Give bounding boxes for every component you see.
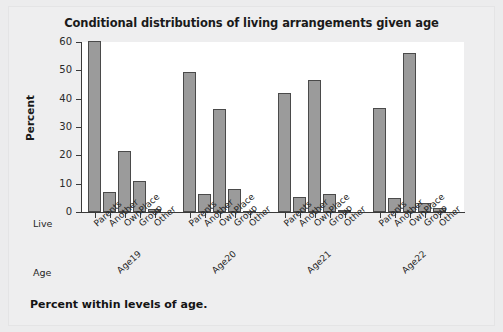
- y-axis-tick-label: 30: [46, 121, 72, 132]
- y-axis-tick-label: 20: [46, 149, 72, 160]
- chart-title: Conditional distributions of living arra…: [0, 16, 503, 30]
- age-row-label: Age: [33, 267, 51, 278]
- chart-footnote: Percent within levels of age.: [30, 298, 207, 311]
- y-axis-tick-label: 40: [46, 93, 72, 104]
- bar: [183, 72, 196, 212]
- y-axis-tick: [76, 99, 81, 100]
- live-row-label: Live: [33, 218, 52, 229]
- y-axis-tick-label: 10: [46, 178, 72, 189]
- y-axis-tick: [76, 184, 81, 185]
- y-axis-line: [81, 42, 82, 213]
- y-axis-tick: [76, 212, 81, 213]
- chart-figure: Conditional distributions of living arra…: [0, 0, 503, 332]
- bar: [278, 93, 291, 212]
- bar: [213, 109, 226, 212]
- y-axis-tick-label: 60: [46, 36, 72, 47]
- y-axis-tick-label: 0: [46, 206, 72, 217]
- bar: [373, 108, 386, 212]
- bar: [403, 53, 416, 212]
- y-axis-tick: [76, 155, 81, 156]
- y-axis-tick: [76, 70, 81, 71]
- y-axis-title: Percent: [24, 83, 36, 153]
- y-axis-tick-label: 50: [46, 64, 72, 75]
- bar: [308, 80, 321, 212]
- y-axis-tick: [76, 42, 81, 43]
- bar: [88, 41, 101, 212]
- y-axis-tick: [76, 127, 81, 128]
